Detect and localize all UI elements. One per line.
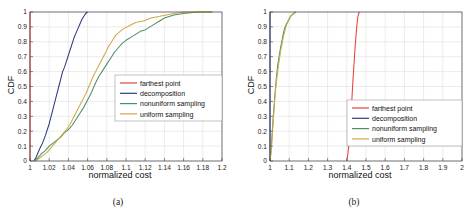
y-axis-title-a: CDF [6, 75, 16, 94]
x-tick-label: 1.14 [158, 164, 171, 171]
y-tick-label: 0.4 [18, 98, 27, 105]
x-tick-label: 1 [268, 164, 272, 171]
legend-label-uniform-sampling: uniform sampling [140, 111, 193, 119]
y-tick-label: 0.9 [258, 23, 267, 30]
x-tick-label: 1.8 [419, 164, 428, 171]
y-tick-label: 0.1 [258, 143, 267, 150]
y-axis-title-b: CDF [246, 75, 256, 94]
x-axis-title-a: normalized cost [88, 170, 152, 180]
y-tick-label: 0.9 [18, 23, 27, 30]
y-tick-label: 0.2 [258, 128, 267, 135]
legend-label-uniform-sampling: uniform sampling [372, 136, 425, 144]
legend-label-nonuniform-sampling: nonuniform sampling [140, 100, 205, 108]
x-tick-label: 2 [460, 164, 464, 171]
x-tick-label: 1.9 [438, 164, 447, 171]
subfigure-caption-a: (a) [0, 197, 236, 207]
y-tick-label: 0.8 [18, 38, 27, 45]
y-tick-label: 0.5 [18, 83, 27, 90]
subfigure-b: 11.11.21.31.41.51.61.71.81.9200.10.20.30… [236, 0, 472, 209]
y-tick-label: 0.8 [258, 38, 267, 45]
x-axis-title-b: normalized cost [328, 170, 392, 180]
x-tick-label: 1.02 [43, 164, 56, 171]
y-tick-label: 0.7 [258, 53, 267, 60]
y-tick-label: 0.3 [258, 113, 267, 120]
y-tick-label: 0.1 [18, 143, 27, 150]
y-tick-label: 0.3 [18, 113, 27, 120]
x-tick-label: 1.2 [304, 164, 313, 171]
plot-b: 11.11.21.31.41.51.61.71.81.9200.10.20.30… [236, 0, 472, 209]
legend-label-farthest-point: farthest point [372, 105, 413, 113]
x-tick-label: 1 [28, 164, 32, 171]
y-tick-label: 0 [23, 157, 27, 164]
plot-a: 11.021.041.061.081.11.121.141.161.181.20… [0, 0, 236, 209]
x-tick-label: 1.7 [400, 164, 409, 171]
y-tick-label: 0.2 [18, 128, 27, 135]
x-tick-label: 1.16 [177, 164, 190, 171]
legend-a[interactable]: farthest pointdecompositionnonuniform sa… [115, 75, 222, 121]
x-tick-label: 1.1 [285, 164, 294, 171]
y-tick-label: 0.5 [258, 83, 267, 90]
x-tick-label: 1.04 [62, 164, 75, 171]
y-tick-label: 0.6 [258, 68, 267, 75]
legend-b[interactable]: farthest pointdecompositionnonuniform sa… [347, 100, 462, 146]
subfigure-caption-b: (b) [236, 197, 472, 207]
y-tick-label: 1 [23, 8, 27, 15]
y-tick-label: 0.6 [18, 68, 27, 75]
y-tick-label: 0.4 [258, 98, 267, 105]
x-tick-label: 1.18 [196, 164, 209, 171]
y-tick-label: 0.7 [18, 53, 27, 60]
figure-row: 11.021.041.061.081.11.121.141.161.181.20… [0, 0, 472, 209]
subfigure-a: 11.021.041.061.081.11.121.141.161.181.20… [0, 0, 236, 209]
y-tick-label: 0 [263, 157, 267, 164]
x-tick-label: 1.2 [217, 164, 226, 171]
y-tick-label: 1 [263, 8, 267, 15]
legend-label-farthest-point: farthest point [140, 80, 181, 88]
legend-label-nonuniform-sampling: nonuniform sampling [372, 125, 437, 133]
legend-label-decomposition: decomposition [140, 90, 185, 98]
legend-label-decomposition: decomposition [372, 115, 417, 123]
